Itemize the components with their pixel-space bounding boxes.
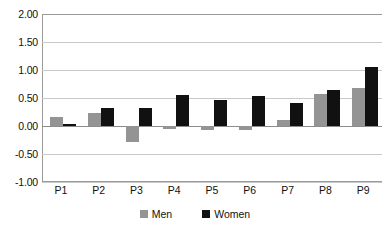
bar-men-p7 xyxy=(277,120,290,126)
bar-women-p7 xyxy=(290,103,303,126)
bar-women-p1 xyxy=(63,124,76,126)
y-axis-tick-label: 1.50 xyxy=(0,37,38,47)
bar-women-p4 xyxy=(176,95,189,126)
bar-men-p6 xyxy=(239,126,252,130)
bar-men-p4 xyxy=(163,126,176,129)
bar-group xyxy=(231,14,269,182)
bar-men-p8 xyxy=(314,94,327,126)
bar-group xyxy=(118,14,156,182)
x-axis-tick-label: P2 xyxy=(79,183,119,197)
x-axis-tick-label: P5 xyxy=(192,183,232,197)
bar-group xyxy=(344,14,382,182)
bar-group xyxy=(193,14,231,182)
x-axis-tick-label: P6 xyxy=(230,183,270,197)
legend-item-women: Women xyxy=(202,208,250,220)
x-axis-tick-label: P1 xyxy=(41,183,81,197)
bar-men-p3 xyxy=(126,126,139,142)
legend-swatch-women-icon xyxy=(202,210,210,218)
y-axis-tick-label: 1.00 xyxy=(0,65,38,75)
x-axis-tick-labels: P1P2P3P4P5P6P7P8P9 xyxy=(42,183,382,199)
legend-label: Men xyxy=(152,208,172,220)
y-axis-tick-label: 0.00 xyxy=(0,121,38,131)
legend-label: Women xyxy=(214,208,250,220)
bar-group xyxy=(80,14,118,182)
bar-women-p2 xyxy=(101,108,114,126)
bar-men-p2 xyxy=(88,113,101,126)
x-axis-tick-label: P8 xyxy=(305,183,345,197)
x-axis-tick-label: P9 xyxy=(343,183,383,197)
x-axis-tick-label: P7 xyxy=(268,183,308,197)
bar-women-p6 xyxy=(252,96,265,126)
bar-chart: 2.001.501.000.500.00-0.50-1.00 P1P2P3P4P… xyxy=(0,0,390,229)
bar-men-p1 xyxy=(50,117,63,126)
bar-men-p9 xyxy=(352,88,365,126)
legend-item-men: Men xyxy=(140,208,172,220)
chart-legend: MenWomen xyxy=(0,205,390,223)
bar-women-p8 xyxy=(327,90,340,126)
bar-group xyxy=(269,14,307,182)
y-axis-tick-label: -0.50 xyxy=(0,149,38,159)
x-axis-tick-label: P4 xyxy=(154,183,194,197)
bar-men-p5 xyxy=(201,126,214,130)
bars-layer xyxy=(42,14,382,182)
x-axis-tick-label: P3 xyxy=(116,183,156,197)
y-axis-tick-label: 0.50 xyxy=(0,93,38,103)
bar-group xyxy=(42,14,80,182)
bar-women-p9 xyxy=(365,67,378,126)
y-axis-tick-label: 2.00 xyxy=(0,9,38,19)
y-axis-tick-label: -1.00 xyxy=(0,177,38,187)
bar-women-p3 xyxy=(139,108,152,126)
bar-women-p5 xyxy=(214,100,227,126)
bar-group xyxy=(155,14,193,182)
legend-swatch-men-icon xyxy=(140,210,148,218)
bar-group xyxy=(306,14,344,182)
